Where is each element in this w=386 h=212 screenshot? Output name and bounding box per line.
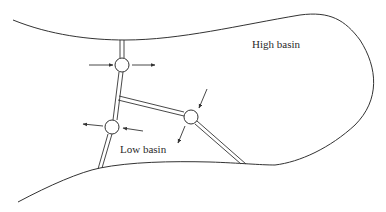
high-basin-shoreline: [13, 14, 374, 165]
right-junction: [184, 110, 198, 124]
arrow-in-right-icon: [199, 89, 207, 108]
basin-diagram: [0, 0, 386, 212]
low-basin-label: Low basin: [120, 143, 166, 155]
lower-junction: [105, 120, 119, 134]
channel-branch: [118, 96, 184, 116]
upper-junction: [115, 58, 129, 72]
channel-upper: [120, 40, 124, 58]
arrow-in-lower-icon: [123, 128, 143, 131]
low-basin-shoreline: [18, 162, 275, 202]
channel-right: [195, 121, 246, 164]
arrow-out-lower-icon: [83, 124, 103, 126]
high-basin-label: High basin: [252, 38, 300, 50]
arrow-out-right-icon: [178, 126, 185, 143]
